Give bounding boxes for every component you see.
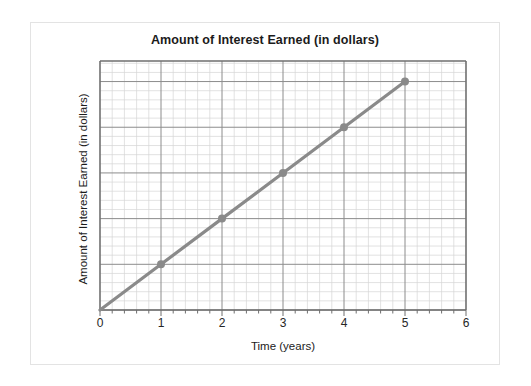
data-series-interest-earned: [100, 61, 466, 310]
x-axis-tick-label: 3: [268, 316, 298, 330]
x-axis-tick-label: 2: [207, 316, 237, 330]
chart-title: Amount of Interest Earned (in dollars): [31, 33, 499, 47]
x-axis-tick-label: 5: [390, 316, 420, 330]
x-axis-tick-label: 4: [329, 316, 359, 330]
x-axis-tick-label: 6: [451, 316, 481, 330]
plot-area: [100, 61, 466, 310]
x-axis-tick-label: 1: [146, 316, 176, 330]
x-axis-tick-label: 0: [85, 316, 115, 330]
chart-figure-frame: Amount of Interest Earned (in dollars) 0…: [30, 22, 500, 365]
y-axis-title: Amount of Interest Earned (in dollars): [77, 64, 89, 314]
x-axis-title: Time (years): [100, 340, 466, 352]
